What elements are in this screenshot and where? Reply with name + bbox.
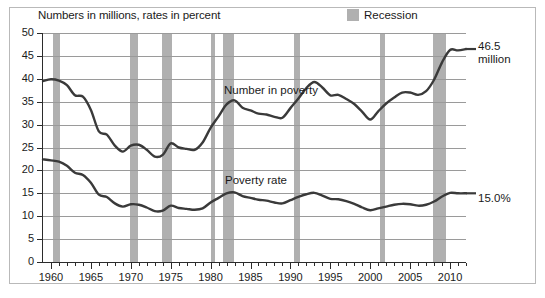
x-axis-tick-minor	[258, 263, 259, 266]
x-axis-tick-minor	[282, 263, 283, 266]
x-axis-label: 2010	[430, 271, 470, 283]
x-axis-tick-major	[370, 263, 371, 269]
y-axis-label: 30	[8, 118, 34, 130]
x-axis-label: 1985	[231, 271, 271, 283]
x-axis-tick-minor	[418, 263, 419, 266]
series-line	[43, 49, 466, 157]
x-axis-label: 1965	[71, 271, 111, 283]
series-lines	[43, 33, 466, 262]
x-axis-label: 1995	[310, 271, 350, 283]
y-axis-label: 15	[8, 186, 34, 198]
y-axis-label: 20	[8, 163, 34, 175]
x-axis-tick-minor	[362, 263, 363, 266]
y-axis-tick	[37, 102, 43, 103]
x-axis-tick-minor	[123, 263, 124, 266]
y-axis-label: 40	[8, 72, 34, 84]
poverty-chart-figure: Numbers in millions, rates in percent Re…	[0, 0, 545, 298]
x-axis-label: 1980	[191, 271, 231, 283]
x-axis-tick-minor	[163, 263, 164, 266]
x-axis-tick-major	[171, 263, 172, 269]
series-label-poverty-rate: Poverty rate	[225, 174, 287, 186]
chart-legend: Recession	[347, 9, 418, 21]
x-axis-tick-major	[51, 263, 52, 269]
x-axis-label: 1975	[151, 271, 191, 283]
x-axis-tick-minor	[195, 263, 196, 266]
x-axis-tick-minor	[346, 263, 347, 266]
x-axis-tick-major	[91, 263, 92, 269]
x-axis-label: 2005	[390, 271, 430, 283]
x-axis-tick-minor	[235, 263, 236, 266]
x-axis-tick-minor	[243, 263, 244, 266]
series-label-number-in-poverty: Number in poverty	[224, 84, 318, 96]
x-axis-tick-minor	[394, 263, 395, 266]
x-axis-tick-minor	[378, 263, 379, 266]
y-axis-label: 50	[8, 26, 34, 38]
x-axis-tick-minor	[179, 263, 180, 266]
x-axis-tick-minor	[386, 263, 387, 266]
y-axis-label: 25	[8, 141, 34, 153]
x-axis-tick-minor	[466, 263, 467, 266]
x-axis-tick-major	[211, 263, 212, 269]
plot-area	[43, 33, 466, 262]
end-label-number-value: 46.5	[478, 40, 511, 53]
x-axis-tick-minor	[426, 263, 427, 266]
chart-subtitle: Numbers in millions, rates in percent	[38, 9, 220, 21]
x-axis-tick-minor	[442, 263, 443, 266]
x-axis-tick-minor	[219, 263, 220, 266]
x-axis-tick-minor	[458, 263, 459, 266]
y-axis-tick	[37, 193, 43, 194]
x-axis-tick-major	[251, 263, 252, 269]
x-axis-tick-minor	[59, 263, 60, 266]
x-axis-tick-minor	[314, 263, 315, 266]
y-axis-tick	[37, 170, 43, 171]
y-axis-tick	[37, 262, 43, 263]
y-axis-label: 5	[8, 232, 34, 244]
x-axis-label: 1960	[31, 271, 71, 283]
recession-swatch-icon	[347, 9, 359, 21]
x-axis-tick-minor	[187, 263, 188, 266]
x-axis-tick-minor	[99, 263, 100, 266]
x-axis-tick-minor	[147, 263, 148, 266]
x-axis-tick-minor	[107, 263, 108, 266]
x-axis-tick-major	[131, 263, 132, 269]
x-axis-tick-minor	[298, 263, 299, 266]
x-axis-tick-minor	[67, 263, 68, 266]
y-axis-label: 35	[8, 95, 34, 107]
x-axis-tick-minor	[155, 263, 156, 266]
x-axis-tick-minor	[227, 263, 228, 266]
x-axis-label: 1990	[270, 271, 310, 283]
x-axis-tick-minor	[75, 263, 76, 266]
x-axis-label: 1970	[111, 271, 151, 283]
end-label-leaders	[466, 33, 492, 262]
x-axis-tick-minor	[266, 263, 267, 266]
y-axis-tick	[37, 56, 43, 57]
x-axis-label: 2000	[350, 271, 390, 283]
x-axis-tick-minor	[338, 263, 339, 266]
x-axis-tick-major	[290, 263, 291, 269]
x-axis-tick-minor	[274, 263, 275, 266]
x-axis-tick-minor	[203, 263, 204, 266]
end-label-poverty-rate: 15.0%	[478, 192, 511, 205]
x-axis-tick-minor	[139, 263, 140, 266]
y-axis-tick	[37, 79, 43, 80]
x-axis-tick-major	[330, 263, 331, 269]
x-axis-tick-major	[450, 263, 451, 269]
x-axis-tick-minor	[434, 263, 435, 266]
y-axis-label: 0	[8, 255, 34, 267]
x-axis-tick-minor	[83, 263, 84, 266]
end-label-number-in-poverty: 46.5 million	[478, 40, 511, 66]
y-axis-label: 10	[8, 209, 34, 221]
x-axis-tick-minor	[322, 263, 323, 266]
y-axis-label: 45	[8, 49, 34, 61]
x-axis-tick-minor	[306, 263, 307, 266]
legend-label-recession: Recession	[364, 9, 418, 21]
y-axis-tick	[37, 239, 43, 240]
y-axis-tick	[37, 33, 43, 34]
x-axis-tick-minor	[402, 263, 403, 266]
y-axis-tick	[37, 148, 43, 149]
end-label-number-units: million	[478, 53, 511, 66]
x-axis-tick-minor	[354, 263, 355, 266]
x-axis-tick-minor	[115, 263, 116, 266]
y-axis-tick	[37, 216, 43, 217]
y-axis-tick	[37, 125, 43, 126]
